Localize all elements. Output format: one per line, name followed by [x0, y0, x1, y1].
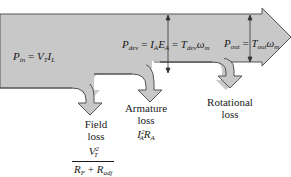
- developed-power-label: Pdev = IAEA = Tdevωm: [122, 38, 210, 54]
- armature-loss-label: Armature loss I2ARA: [118, 102, 174, 144]
- power-flow-diagram: [0, 0, 291, 177]
- field-loss-label: Field loss: [72, 118, 120, 142]
- rotational-loss-label: Rotational loss: [200, 96, 260, 120]
- field-loss-arrow: [0, 80, 102, 115]
- input-power-label: Pin = VTIL: [13, 50, 55, 66]
- output-power-label: Pout = Toutωm: [224, 37, 279, 53]
- field-loss-formula: V2T RF + Radj: [72, 143, 114, 177]
